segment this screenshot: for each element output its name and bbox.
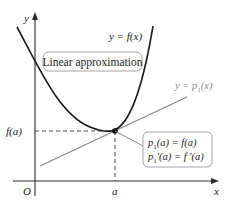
title-label: Linear approximation bbox=[43, 56, 143, 69]
curve-label: y = f(x) bbox=[108, 30, 142, 43]
linear-approximation-diagram: Linear approximation p1(a) = f(a) p1′(a)… bbox=[0, 0, 231, 207]
origin-label: O bbox=[23, 185, 31, 197]
x-axis-label: x bbox=[213, 185, 219, 197]
tangent-line-label: y = p1(x) bbox=[174, 80, 213, 94]
y-axis-arrow-icon bbox=[32, 12, 38, 20]
a-tick-label: a bbox=[112, 185, 118, 197]
callout-connector bbox=[115, 131, 143, 146]
x-axis-arrow-icon bbox=[211, 178, 219, 184]
y-axis-label: y bbox=[23, 12, 29, 24]
fa-tick-label: f(a) bbox=[6, 125, 22, 138]
